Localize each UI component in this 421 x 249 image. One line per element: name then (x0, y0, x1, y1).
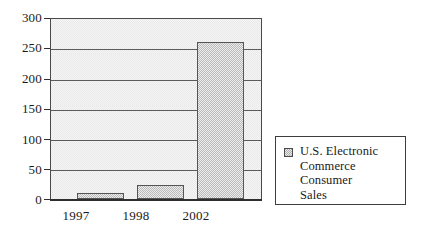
bar-1998 (137, 185, 184, 199)
legend-swatch-icon (284, 148, 293, 157)
y-tick-label-50: 50 (2, 163, 42, 176)
chart-legend: U.S. Electronic Commerce Consumer Sales (275, 136, 406, 205)
x-tick-label-2002: 2002 (166, 208, 226, 223)
y-tick-label-200: 200 (2, 72, 42, 85)
bar-chart-figure: 300 250 200 150 100 50 0 1997 1998 2002 (0, 0, 421, 249)
x-axis-line (50, 199, 262, 201)
x-tick-label-1998: 1998 (106, 208, 166, 223)
legend-entry: U.S. Electronic Commerce Consumer Sales (284, 144, 397, 202)
y-tick-label-250: 250 (2, 41, 42, 54)
y-tick-label-300: 300 (2, 11, 42, 24)
x-tick-label-1997: 1997 (46, 208, 106, 223)
y-tick-label-0: 0 (2, 193, 42, 206)
y-tick-label-150: 150 (2, 102, 42, 115)
legend-entry-label: U.S. Electronic Commerce Consumer Sales (300, 144, 378, 202)
bar-2002 (197, 42, 244, 199)
y-tick-label-100: 100 (2, 133, 42, 146)
y-axis-labels: 300 250 200 150 100 50 0 (0, 0, 42, 249)
plot-area (50, 18, 262, 200)
